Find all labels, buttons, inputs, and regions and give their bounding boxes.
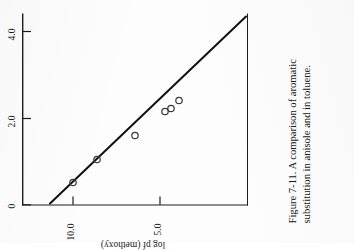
plot-area: 0 2.0 4.0 5.0 10.0	[22, 13, 248, 205]
figure-caption: Figure 7-11. A comparison of aromatic su…	[286, 17, 314, 223]
data-points	[70, 97, 182, 185]
y-tick-label-5: 5.0	[153, 223, 163, 235]
y-axis-title: log pf (methoxy)	[101, 240, 165, 250]
data-point	[168, 105, 174, 111]
data-point	[176, 97, 182, 103]
x-tick-label-2: 2.0	[7, 115, 17, 127]
x-tick-label-4: 4.0	[7, 28, 17, 40]
y-tick-label-10: 10.0	[66, 223, 76, 240]
figure-caption-text: Figure 7-11. A comparison of aromatic su…	[287, 59, 312, 223]
chart-canvas	[22, 13, 248, 205]
y-tick-marks	[73, 196, 160, 204]
y-axis-title-text: log pf (methoxy)	[101, 240, 165, 250]
x-tick-label-0: 0	[7, 203, 17, 208]
x-tick-marks	[23, 31, 31, 204]
data-point	[132, 132, 138, 138]
fitted-line	[50, 16, 246, 203]
